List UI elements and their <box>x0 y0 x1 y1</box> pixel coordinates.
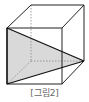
figure-caption: [그림2] <box>0 87 89 99</box>
cube-diagram <box>0 0 89 88</box>
